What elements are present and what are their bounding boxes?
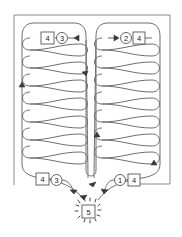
- top-right-circle-label: 2: [124, 34, 128, 43]
- bottom-right-node-group: 1 4: [89, 174, 140, 194]
- bottom-left-node-group: 4 3: [36, 173, 87, 200]
- arrow-right-icon: [114, 35, 119, 41]
- exit-node-group: 5: [75, 198, 101, 223]
- outer-frame-left: [14, 15, 170, 185]
- arrow-down-icon: [70, 190, 77, 194]
- bottom-right-circle-label: 1: [118, 176, 122, 185]
- top-left-node-group: 4 3: [41, 32, 79, 44]
- bottom-left-circle-label: 3: [54, 176, 58, 185]
- top-right-box-label: 4: [137, 34, 141, 43]
- flow-diagram: 4 3 2 4 4 3 1 4: [0, 0, 182, 237]
- top-right-node-group: 2 4: [108, 32, 152, 44]
- arrow-down-icon: [80, 195, 87, 200]
- arrow-down-icon: [101, 189, 108, 194]
- arrow-down-icon: [89, 182, 96, 187]
- bottom-right-box-label: 4: [132, 176, 136, 185]
- left-lane-coils: [23, 38, 88, 164]
- bottom-left-box-label: 4: [40, 175, 44, 184]
- top-left-box-label: 4: [45, 34, 49, 43]
- right-lane-coils: [95, 38, 160, 164]
- arrow-left-icon: [74, 35, 79, 41]
- exit-box-label: 5: [86, 208, 90, 217]
- top-left-circle-label: 3: [60, 34, 64, 43]
- arrow-up-icon: [151, 160, 157, 165]
